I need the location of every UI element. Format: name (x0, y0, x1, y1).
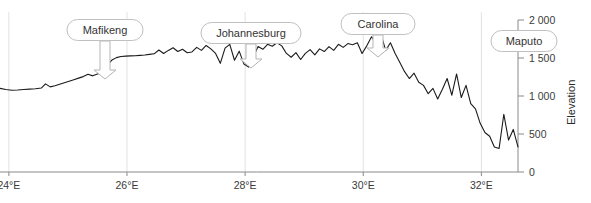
callout-arrow-icon (240, 44, 262, 68)
y-tick-label-2: 1 000 (529, 90, 555, 102)
callout-mafikeng[interactable]: Mafikeng (67, 20, 143, 80)
x-tick-label-4: 32°E (470, 179, 493, 191)
callout-label: Maputo (506, 35, 543, 47)
x-tick-label-1: 26°E (116, 179, 139, 191)
y-tick-label-4: 2 000 (529, 14, 555, 26)
y-tick-label-0: 0 (529, 166, 535, 178)
y-axis-title: Elevation (565, 80, 577, 125)
callout-carolina[interactable]: Carolina (341, 14, 415, 58)
callout-maputo[interactable]: Maputo (491, 31, 557, 52)
x-tick-label-3: 30°E (352, 179, 375, 191)
x-tick-label-2: 28°E (234, 179, 257, 191)
y-tick-label-3: 1 500 (529, 52, 555, 64)
x-axis-ticks: 24°E26°E28°E30°E32°E (0, 172, 493, 191)
callout-label: Johannesburg (216, 27, 286, 39)
x-tick-label-0: 24°E (0, 179, 20, 191)
elevation-series (0, 34, 518, 148)
city-callouts: MafikengJohannesburgCarolinaMaputo (67, 14, 557, 80)
callout-johannesburg[interactable]: Johannesburg (201, 23, 301, 69)
y-tick-label-1: 500 (529, 128, 547, 140)
chart-svg: 24°E26°E28°E30°E32°E 05001 0001 5002 000… (0, 0, 591, 203)
callout-label: Carolina (358, 18, 400, 30)
callout-label: Mafikeng (83, 24, 128, 36)
elevation-profile-chart: 24°E26°E28°E30°E32°E 05001 0001 5002 000… (0, 0, 591, 203)
elevation-line (0, 34, 518, 148)
